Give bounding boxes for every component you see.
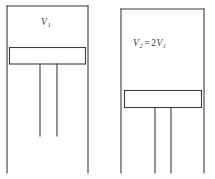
cylinder-right-group	[121, 9, 204, 173]
cylinder-right-piston	[125, 91, 202, 108]
figure-canvas: V1 V2=2V1	[0, 0, 215, 179]
volume-label-right-subscript2: 1	[163, 42, 167, 49]
volume-label-right: V2=2V1	[133, 39, 166, 49]
cylinder-left-piston	[10, 48, 86, 65]
diagram-svg	[0, 0, 215, 179]
volume-label-right-symbol2: V	[156, 38, 162, 48]
volume-label-left-subscript: 1	[47, 21, 51, 28]
cylinder-left-group	[7, 6, 88, 173]
volume-label-right-subscript: 2	[139, 42, 143, 49]
volume-label-left: V1	[41, 18, 51, 28]
